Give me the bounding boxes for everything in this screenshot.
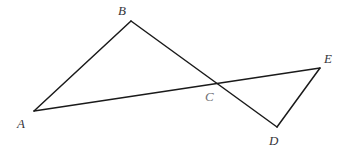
figure-canvas [0,0,351,155]
segment-DE [277,68,320,127]
vertex-label-B: B [118,4,126,17]
segment-BD [131,21,277,127]
geometry-figure: A B C D E [0,0,351,155]
vertex-label-C: C [205,90,214,103]
segment-AE [34,68,320,111]
segment-AB [34,21,131,111]
vertex-label-D: D [269,134,278,147]
vertex-label-E: E [324,52,332,65]
vertex-label-A: A [17,117,25,130]
